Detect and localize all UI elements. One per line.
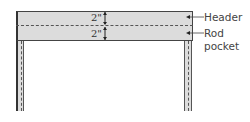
rod-pocket-callout-line1: Rod xyxy=(204,27,224,39)
stitch-line-left xyxy=(21,41,22,111)
callout-leader-arrows-icon xyxy=(184,13,204,37)
curtain-left-edge xyxy=(16,41,24,111)
rod-pocket-callout-line2: pocket xyxy=(204,40,239,52)
header-callout: Header xyxy=(204,11,242,23)
dimension-arrows-icon xyxy=(100,11,110,41)
curtain-right-edge xyxy=(184,41,192,111)
stitch-line-right xyxy=(188,41,189,111)
